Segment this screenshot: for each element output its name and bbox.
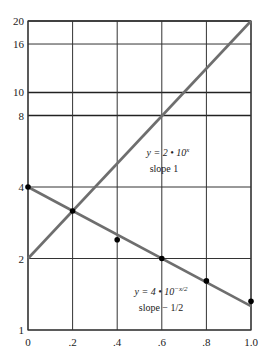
y-tick-label: 8 bbox=[19, 110, 25, 122]
annotation-decay-slope: slope − 1/2 bbox=[139, 302, 184, 313]
data-point bbox=[159, 256, 165, 262]
annotation-decay-equation: y = 4 • 10−x/2 bbox=[134, 285, 188, 297]
data-point bbox=[248, 299, 254, 305]
x-tick-label: 1.0 bbox=[244, 336, 258, 348]
tick-labels: 12481016200.2.4.6.81.0 bbox=[13, 15, 258, 348]
annotation-growth-equation: y = 2 • 10x bbox=[146, 146, 191, 158]
grid bbox=[28, 21, 251, 330]
y-tick-label: 20 bbox=[13, 15, 25, 27]
y-tick-label: 1 bbox=[19, 324, 25, 336]
data-point bbox=[114, 237, 120, 243]
annotation-growth-slope: slope 1 bbox=[150, 163, 179, 174]
growth-equation-exponent: x bbox=[185, 146, 190, 154]
y-tick-label: 2 bbox=[19, 253, 25, 265]
growth-equation-base: y = 2 • 10 bbox=[146, 147, 187, 158]
decay-equation-base: y = 4 • 10 bbox=[134, 286, 175, 297]
series bbox=[28, 21, 251, 306]
y-tick-label: 16 bbox=[13, 38, 25, 50]
x-tick-label: 0 bbox=[25, 336, 31, 348]
x-tick-label: .4 bbox=[113, 336, 122, 348]
x-tick-label: .2 bbox=[68, 336, 76, 348]
y-tick-label: 4 bbox=[19, 181, 25, 193]
plot-frame bbox=[28, 21, 251, 330]
growth-line bbox=[28, 21, 251, 259]
x-tick-label: .6 bbox=[158, 336, 167, 348]
data-point bbox=[70, 208, 76, 214]
data-point bbox=[204, 278, 210, 284]
x-tick-label: .8 bbox=[202, 336, 211, 348]
decay-equation-exponent: −x/2 bbox=[174, 285, 188, 293]
y-tick-label: 10 bbox=[13, 86, 25, 98]
data-point bbox=[25, 184, 31, 190]
annotation-exponential-decay: y = 4 • 10−x/2 slope − 1/2 bbox=[134, 285, 188, 313]
log-plot: 12481016200.2.4.6.81.0 y = 2 • 10x slope… bbox=[0, 0, 268, 360]
annotation-exponential-growth: y = 2 • 10x slope 1 bbox=[146, 146, 191, 174]
